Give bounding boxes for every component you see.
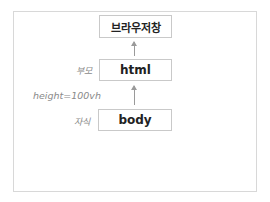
parent-annotation: 부모 <box>76 64 92 77</box>
body-node: body <box>98 109 172 131</box>
arrow-up-icon <box>134 86 135 105</box>
child-annotation: 자식 <box>74 115 90 128</box>
html-node: html <box>99 59 172 81</box>
body-node-label: body <box>118 113 151 127</box>
diagram-frame <box>13 11 257 192</box>
html-node-label: html <box>120 63 151 77</box>
arrow-up-icon <box>134 42 135 56</box>
height-annotation: height=100vh <box>33 90 101 101</box>
browser-window-node: 브라우저창 <box>99 15 172 38</box>
browser-window-label: 브라우저창 <box>111 19 161 35</box>
